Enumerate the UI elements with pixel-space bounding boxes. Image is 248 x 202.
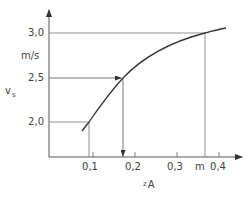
y-tick-2-0: 2,0 [14,117,44,127]
y-axis-label-sub: s [12,91,16,99]
data-curve [82,28,226,131]
x-axis-label: zA [143,180,155,190]
y-axis-label-main: v [5,85,11,96]
y-tick-2-5: 2,5 [14,73,44,83]
y-axis-label: vs [5,86,16,96]
x-tick-0-4: 0,4 [206,162,230,172]
x-tick-0-2: 0,2 [121,162,145,172]
y-axis-unit: m/s [21,51,39,61]
x-tick-0-1: 0,1 [78,162,102,172]
x-axis-label-sub: A [148,179,155,190]
guide-2-0 [49,122,89,157]
y-tick-3-0: 3,0 [14,28,44,38]
x-ticks [93,152,219,157]
x-axis-unit: m [195,162,205,172]
x-axis-label-main: z [143,180,147,188]
x-tick-0-3: 0,3 [163,162,187,172]
guide-3-0 [49,33,205,157]
guide-lines [49,33,205,157]
